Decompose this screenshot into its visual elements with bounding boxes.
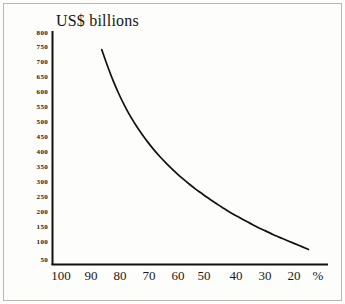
x-tick-label: 30	[259, 268, 272, 284]
x-axis-unit-label: %	[313, 268, 324, 284]
plot-area: US$ billions 800 750 700 650 600 550 500…	[0, 0, 345, 304]
chart-figure: US$ billions 800 750 700 650 600 550 500…	[0, 0, 345, 304]
axes-and-curve-svg	[0, 0, 345, 304]
x-tick-label: 50	[198, 268, 211, 284]
x-tick-label: 40	[230, 268, 243, 284]
x-tick-label: 100	[51, 268, 71, 284]
x-tick-label: 60	[172, 268, 185, 284]
x-tick-label: 20	[288, 268, 301, 284]
data-series-curve	[102, 50, 309, 250]
x-tick-label: 80	[114, 268, 127, 284]
x-tick-label: 90	[85, 268, 98, 284]
x-tick-label: 70	[143, 268, 156, 284]
